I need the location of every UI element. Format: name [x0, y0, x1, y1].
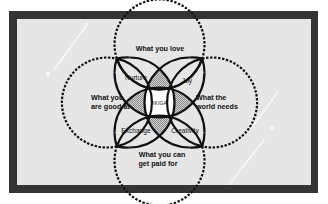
label-creativity: Creativity	[171, 127, 199, 135]
label-what-you-are-good-at-line2: are good at	[91, 102, 130, 111]
label-what-you-can-get-paid-for-line2: get paid for	[138, 159, 177, 168]
label-nurture: Nurture	[125, 74, 147, 81]
label-what-you-can-get-paid-for-line1: What you can	[139, 150, 186, 159]
label-joy: Joy	[182, 77, 193, 85]
label-what-the-world-needs-line1: What the	[196, 93, 226, 102]
label-what-the-world-needs-line2: world needs	[195, 102, 238, 111]
label-what-you-are-good-at-line1: What you	[91, 93, 123, 102]
label-ikigai-center: IKIGA	[153, 100, 167, 106]
label-exchange: Exchange	[121, 127, 151, 135]
label-what-you-love: What you love	[136, 44, 185, 53]
ikigai-venn-diagram: What you love What you are good at What …	[0, 0, 328, 204]
